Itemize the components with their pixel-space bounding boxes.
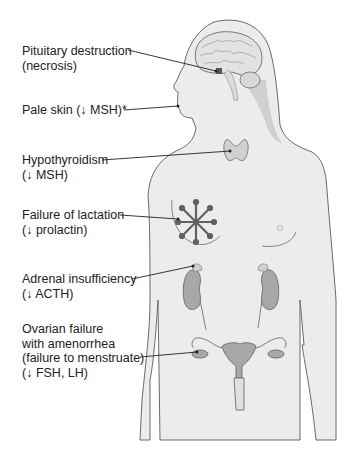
label-ovarian-line-3: (failure to menstruate) bbox=[22, 351, 144, 366]
label-ovarian-failure: Ovarian failure with amenorrhea (failure… bbox=[22, 322, 144, 380]
label-pale-skin-line-1: Pale skin (↓ MSH)* bbox=[22, 103, 127, 118]
kidney-left bbox=[183, 270, 200, 310]
kidney-right bbox=[261, 270, 278, 310]
mammary-glands bbox=[176, 200, 216, 244]
label-lactation-line-2: (↓ prolactin) bbox=[22, 223, 124, 238]
label-hypothyroidism-line-2: (↓ MSH) bbox=[22, 168, 108, 183]
label-hypothyroidism-line-1: Hypothyroidism bbox=[22, 153, 108, 168]
label-adrenal: Adrenal insufficiency (↓ ACTH) bbox=[22, 272, 136, 301]
label-lactation-line-1: Failure of lactation bbox=[22, 208, 124, 223]
hypopituitarism-diagram: Pituitary destruction (necrosis) Pale sk… bbox=[0, 0, 346, 461]
label-lactation: Failure of lactation (↓ prolactin) bbox=[22, 208, 124, 237]
label-pale-skin: Pale skin (↓ MSH)* bbox=[22, 103, 127, 118]
label-hypothyroidism: Hypothyroidism (↓ MSH) bbox=[22, 153, 108, 182]
label-ovarian-line-4: (↓ FSH, LH) bbox=[22, 366, 144, 381]
label-adrenal-line-1: Adrenal insufficiency bbox=[22, 272, 136, 287]
label-adrenal-line-2: (↓ ACTH) bbox=[22, 287, 136, 302]
label-pituitary: Pituitary destruction (necrosis) bbox=[22, 44, 132, 73]
label-pituitary-line-1: Pituitary destruction bbox=[22, 44, 132, 59]
label-ovarian-line-1: Ovarian failure bbox=[22, 322, 144, 337]
label-pituitary-line-2: (necrosis) bbox=[22, 59, 132, 74]
cerebellum bbox=[240, 72, 260, 88]
label-ovarian-line-2: with amenorrhea bbox=[22, 337, 144, 352]
nipple-right bbox=[277, 225, 283, 231]
